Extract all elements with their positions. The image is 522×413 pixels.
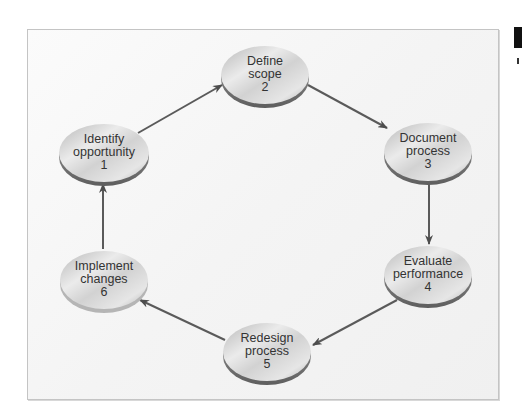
edge-2-to-3 [308,85,387,128]
cropped-heading-block [514,27,522,48]
edge-5-to-6 [140,300,225,340]
node-evaluate-performance: Evaluate performance 4 [383,255,473,294]
node-2-number: 2 [220,81,310,94]
node-3-number: 3 [383,158,473,171]
node-5-number: 5 [222,358,312,371]
node-define-scope: Define scope 2 [220,55,310,94]
edge-1-to-2 [138,85,222,133]
node-implement-changes: Implement changes 6 [59,260,149,299]
cropped-text-mark [517,58,519,64]
node-identify-opportunity: Identify opportunity 1 [59,133,149,172]
edge-4-to-5 [313,300,397,345]
node-document-process: Document process 3 [383,132,473,171]
node-redesign-process: Redesign process 5 [222,332,312,371]
node-6-number: 6 [59,286,149,299]
node-4-number: 4 [383,281,473,294]
node-1-number: 1 [59,159,149,172]
